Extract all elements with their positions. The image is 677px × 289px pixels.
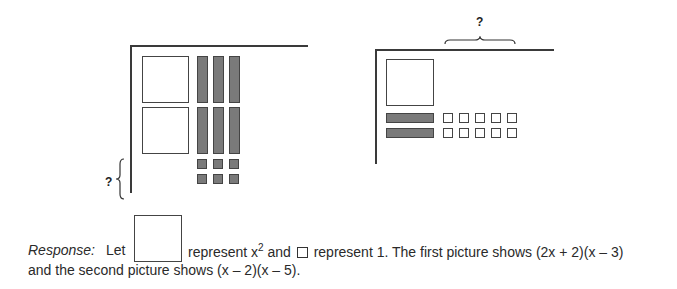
pos-unit-tile <box>475 128 485 138</box>
neg-unit-tile <box>213 174 223 184</box>
represent-x2-text: represent x <box>188 244 258 260</box>
neg-unit-tile <box>229 159 239 169</box>
x-squared-tile <box>142 107 189 154</box>
pos-unit-tile <box>491 128 501 138</box>
response-let: Let <box>106 242 125 258</box>
response-line-2: and the second picture shows (x – 2)(x –… <box>28 262 300 278</box>
top-brace-icon <box>444 36 516 46</box>
x-squared-tile <box>386 59 434 106</box>
neg-x-tile <box>197 107 208 154</box>
exponent: 2 <box>258 242 264 253</box>
pos-unit-tile <box>475 113 485 123</box>
pos-unit-tile <box>443 128 453 138</box>
x-squared-tile <box>142 56 189 103</box>
left-brace-icon <box>114 158 126 200</box>
response-label: Response: <box>28 242 95 258</box>
right-side-axis <box>375 49 377 164</box>
right-top-axis <box>375 49 554 51</box>
pos-unit-tile <box>507 113 517 123</box>
left-side-axis <box>130 45 132 193</box>
response-line-1: represent x2 and represent 1. The first … <box>188 242 623 260</box>
pos-unit-tile <box>443 113 453 123</box>
neg-x-tile <box>197 56 208 103</box>
neg-unit-tile <box>197 159 207 169</box>
pos-unit-tile <box>491 113 501 123</box>
and-text: and <box>268 244 291 260</box>
neg-x-tile <box>229 56 240 103</box>
neg-x-tile <box>386 113 434 123</box>
legend-x-squared-tile <box>134 215 182 262</box>
neg-unit-tile <box>197 174 207 184</box>
pos-unit-tile <box>459 128 469 138</box>
left-top-axis <box>130 45 308 47</box>
pos-unit-tile <box>459 113 469 123</box>
left-question-mark: ? <box>105 175 112 189</box>
represent-1-text: represent 1. The first picture shows (2x… <box>314 244 624 260</box>
neg-unit-tile <box>213 159 223 169</box>
neg-x-tile <box>229 107 240 154</box>
neg-unit-tile <box>229 174 239 184</box>
neg-x-tile <box>386 128 434 138</box>
top-question-mark: ? <box>476 15 483 29</box>
neg-x-tile <box>213 56 224 103</box>
neg-x-tile <box>213 107 224 154</box>
pos-unit-tile <box>507 128 517 138</box>
legend-unit-tile-icon <box>297 247 308 258</box>
